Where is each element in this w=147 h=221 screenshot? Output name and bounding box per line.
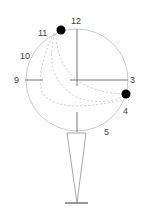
label-12: 12 (71, 16, 81, 26)
dot-near-11 (57, 26, 66, 35)
label-4: 4 (123, 106, 128, 116)
stand-cone (67, 133, 86, 203)
clock-stand-diagram: 12 11 10 9 3 4 5 (0, 0, 147, 221)
label-10: 10 (20, 51, 30, 61)
dashed-arc-inner (56, 34, 126, 94)
label-5: 5 (104, 127, 109, 137)
dashed-arc-outer (41, 33, 123, 106)
label-11: 11 (38, 28, 47, 38)
label-3: 3 (130, 75, 135, 85)
label-9: 9 (14, 75, 19, 85)
dot-near-3-4 (122, 90, 131, 99)
